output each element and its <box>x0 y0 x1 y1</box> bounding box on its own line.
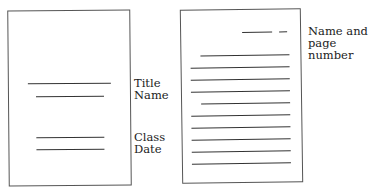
date-label: Date <box>134 143 162 155</box>
page-number-label: page number <box>308 37 382 61</box>
body-line <box>200 54 289 56</box>
body-line <box>191 66 290 68</box>
name-line <box>36 96 104 98</box>
title-page-diagram <box>7 9 132 186</box>
name-label: Name <box>134 89 169 101</box>
date-line <box>36 149 104 151</box>
body-line <box>192 150 291 152</box>
title-line <box>28 83 111 85</box>
body-line <box>192 138 291 140</box>
body-line <box>191 126 290 128</box>
body-line <box>191 78 290 80</box>
text-page-diagram <box>180 8 303 184</box>
body-line <box>191 90 290 92</box>
body-line <box>201 102 290 104</box>
body-line <box>191 114 290 116</box>
class-line <box>36 137 104 139</box>
body-line <box>192 162 291 164</box>
header-page-number-dash <box>279 31 287 32</box>
header-name-line <box>242 32 272 33</box>
